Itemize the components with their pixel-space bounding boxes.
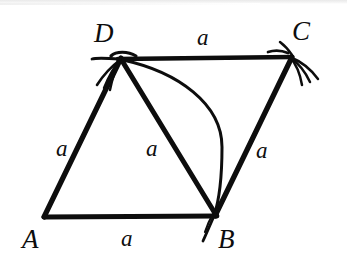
edge-AB bbox=[44, 216, 217, 217]
vertex-label-B: B bbox=[218, 226, 235, 253]
edge-BC bbox=[215, 57, 292, 216]
tick-C-4 bbox=[268, 51, 288, 53]
diagonal-length-label-DB: a bbox=[146, 137, 158, 160]
vertex-label-A: A bbox=[22, 226, 39, 253]
vertex-label-C: C bbox=[292, 18, 310, 45]
side-length-label-AB: a bbox=[121, 227, 133, 250]
figure-canvas: A B C D a a a a a bbox=[0, 0, 347, 265]
side-length-label-BC: a bbox=[256, 139, 268, 162]
edge-DC bbox=[118, 57, 292, 59]
tick-D-arc-cap bbox=[111, 52, 136, 56]
rhombus-outline bbox=[44, 57, 292, 217]
side-length-label-DC: a bbox=[197, 26, 209, 49]
tick-D-4 bbox=[92, 58, 120, 59]
vertex-label-D: D bbox=[94, 20, 114, 47]
compass-marks-at-C bbox=[268, 42, 318, 85]
side-length-label-AD: a bbox=[56, 137, 68, 160]
edge-diagonal-DB bbox=[121, 59, 216, 215]
